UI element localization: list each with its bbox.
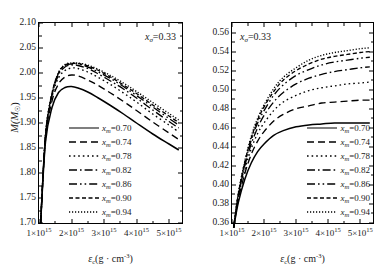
x-tick-label: 1×1015 [219, 227, 244, 238]
y-minor-tick [371, 61, 374, 62]
annotation-right-value: =0.33 [248, 31, 271, 42]
y-tick-label: 0.48 [212, 104, 229, 114]
x-minor-tick [280, 23, 281, 26]
y-minor-tick [371, 80, 374, 81]
x-tick-label: 3×1015 [284, 227, 309, 238]
y-minor-tick [232, 118, 235, 119]
x-axis-label-right-unit: (g · cm [287, 253, 316, 264]
y-minor-tick [180, 210, 183, 211]
x-tick-mark [71, 23, 72, 27]
y-axis-label-left-sub: ☉ [14, 106, 22, 112]
y-minor-tick [232, 42, 235, 43]
legend-item-label: xm=0.74 [340, 138, 370, 147]
annotation-left: xσ=0.33 [145, 31, 176, 42]
legend-item: xm=0.82 [69, 163, 132, 177]
x-minor-tick [87, 23, 88, 26]
y-minor-tick [232, 80, 235, 81]
legend-line-swatch [307, 208, 337, 216]
y-minor-tick [180, 85, 183, 86]
x-tick-label: 5×1015 [348, 227, 373, 238]
x-axis-label-right-close: ) [321, 253, 324, 264]
x-minor-tick [55, 221, 56, 224]
x-tick-mark [136, 23, 137, 27]
legend-item-label: xm=0.78 [102, 152, 132, 161]
legend-line-swatch [69, 180, 99, 188]
legend-line-swatch [307, 166, 337, 174]
y-tick-label: 1.80 [19, 168, 36, 178]
y-minor-tick [371, 118, 374, 119]
legend-item-label: xm=0.78 [340, 152, 370, 161]
y-tick-mark [178, 198, 182, 199]
x-tick-mark [232, 219, 233, 223]
legend-item-label: xm=0.86 [102, 180, 132, 189]
y-axis-label-left: M(M☉) [9, 88, 20, 148]
y-minor-tick [232, 156, 235, 157]
y-minor-tick [232, 99, 235, 100]
y-tick-mark [369, 32, 373, 33]
legend-line-swatch [307, 138, 337, 146]
annotation-left-subscript: σ [149, 36, 152, 44]
x-tick-mark [104, 219, 105, 223]
legend-item-label: xm=0.94 [340, 208, 370, 217]
y-tick-mark [178, 48, 182, 49]
y-tick-label: 0.50 [212, 85, 229, 95]
y-minor-tick [371, 137, 374, 138]
x-tick-mark [39, 219, 40, 223]
legend-item-label: xm=0.70 [102, 124, 132, 133]
y-minor-tick [232, 175, 235, 176]
x-tick-mark [360, 23, 361, 27]
legend-item: xm=0.70 [69, 121, 132, 135]
legend-item: xm=0.78 [69, 149, 132, 163]
y-tick-mark [369, 165, 373, 166]
x-tick-label: 4×1015 [124, 227, 149, 238]
y-tick-mark [369, 89, 373, 90]
x-tick-mark [328, 219, 329, 223]
y-tick-mark [232, 108, 236, 109]
x-tick-mark [136, 219, 137, 223]
y-tick-label: 2.10 [19, 18, 36, 28]
legend-item-label: xm=0.86 [340, 180, 370, 189]
x-tick-label: 5×1015 [156, 227, 181, 238]
y-tick-label: 1.75 [19, 193, 36, 203]
x-tick-mark [296, 23, 297, 27]
y-tick-mark [232, 127, 236, 128]
x-axis-label-left-close: ) [129, 253, 132, 264]
legend-item: xm=0.74 [69, 135, 132, 149]
x-minor-tick [152, 221, 153, 224]
x-tick-mark [169, 23, 170, 27]
y-minor-tick [39, 60, 42, 61]
annotation-left-value: =0.33 [153, 31, 176, 42]
y-tick-label: 0.56 [212, 28, 229, 38]
legend-line-swatch [69, 166, 99, 174]
panel-mass-vs-density: xσ=0.33 xm=0.70xm=0.74xm=0.78xm=0.82xm=0… [0, 0, 190, 277]
y-minor-tick [39, 135, 42, 136]
x-tick-mark [360, 219, 361, 223]
y-minor-tick [180, 160, 183, 161]
x-minor-tick [152, 23, 153, 26]
legend-line-swatch [307, 180, 337, 188]
y-tick-mark [39, 173, 43, 174]
y-minor-tick [180, 185, 183, 186]
y-minor-tick [180, 110, 183, 111]
y-tick-mark [39, 73, 43, 74]
legend-line-swatch [69, 124, 99, 132]
x-tick-mark [296, 219, 297, 223]
legend-line-swatch [307, 124, 337, 132]
legend-item-label: xm=0.74 [102, 138, 132, 147]
y-tick-mark [369, 127, 373, 128]
y-tick-mark [178, 73, 182, 74]
legend-item: xm=0.90 [69, 191, 132, 205]
x-minor-tick [248, 23, 249, 26]
x-tick-label: 1×1015 [26, 227, 51, 238]
legend-item: xm=0.86 [69, 177, 132, 191]
y-minor-tick [39, 110, 42, 111]
y-tick-mark [39, 48, 43, 49]
legend-item: xm=0.82 [307, 163, 370, 177]
y-minor-tick [371, 156, 374, 157]
legend-item: xm=0.90 [307, 191, 370, 205]
x-tick-mark [328, 23, 329, 27]
plot-frame-left: xσ=0.33 xm=0.70xm=0.74xm=0.78xm=0.82xm=0… [38, 22, 183, 224]
legend-right: xm=0.70xm=0.74xm=0.78xm=0.82xm=0.86xm=0.… [307, 121, 370, 219]
y-tick-label: 2.05 [19, 43, 36, 53]
y-minor-tick [180, 135, 183, 136]
